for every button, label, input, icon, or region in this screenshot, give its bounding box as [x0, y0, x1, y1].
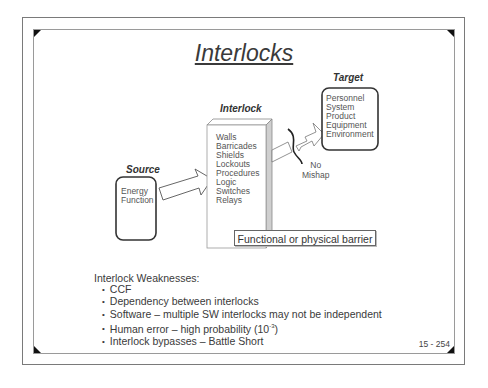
source-items: Energy Function: [121, 187, 154, 205]
weakness-text: Dependency between interlocks: [110, 295, 259, 307]
weaknesses-list: Interlock Weaknesses: CCF Dependency bet…: [94, 273, 382, 348]
no-mishap-label: No Mishap: [302, 160, 329, 180]
no-mishap-line: No: [302, 160, 329, 170]
weakness-text: Software – multiple SW interlocks may no…: [110, 308, 382, 320]
weakness-text: Human error – high probability (10: [110, 322, 269, 334]
interlock-item: Relays: [216, 196, 259, 205]
weakness-item: Software – multiple SW interlocks may no…: [102, 309, 382, 321]
interlock-label: Interlock: [220, 103, 262, 114]
interlock-items: Walls Barricades Shields Lockouts Proced…: [216, 133, 259, 205]
no-mishap-line: Mishap: [302, 170, 329, 180]
barrier-caption: Functional or physical barrier: [234, 230, 376, 246]
interlock-box-top: [207, 119, 272, 125]
weakness-text: Interlock bypasses – Battle Short: [110, 335, 264, 347]
arrow-source-to-interlock: [159, 169, 212, 200]
source-item: Function: [121, 196, 154, 205]
weakness-text: CCF: [110, 283, 132, 295]
target-item: Environment: [326, 130, 374, 139]
source-label: Source: [126, 164, 160, 175]
weakness-text-suffix: ): [275, 322, 279, 334]
weakness-item: Human error – high probability (10-3): [102, 321, 382, 336]
weakness-item: Interlock bypasses – Battle Short: [102, 336, 382, 348]
target-label: Target: [333, 72, 363, 83]
target-items: Personnel System Product Equipment Envir…: [326, 94, 374, 139]
interlock-box-side: [266, 119, 272, 248]
page-number: 15 - 254: [419, 339, 450, 349]
arrow-to-target: [296, 123, 324, 151]
arrow-interlock-segment: [272, 142, 292, 162]
weaknesses-heading: Interlock Weaknesses:: [94, 273, 382, 284]
